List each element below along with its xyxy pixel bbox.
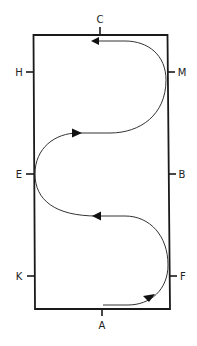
marker-letter-m: M <box>178 67 187 78</box>
arrowhead-icon-right-upper <box>72 129 82 138</box>
marker-letter-h: H <box>15 67 23 78</box>
arrowhead-icon-near-f <box>143 294 155 302</box>
marker-letter-k: K <box>16 271 23 282</box>
serpentine-route <box>35 41 168 305</box>
marker-letter-c: C <box>97 14 104 25</box>
arena-border <box>34 35 171 309</box>
marker-letter-b: B <box>179 169 186 180</box>
arrowhead-icon-left-lower <box>92 212 101 221</box>
arrowhead-icon-at-c <box>91 37 99 45</box>
marker-letter-f: F <box>180 271 186 282</box>
marker-letter-e: E <box>16 169 22 180</box>
arena-diagram: C A H E K M B F <box>0 0 197 346</box>
marker-letter-a: A <box>99 320 106 331</box>
